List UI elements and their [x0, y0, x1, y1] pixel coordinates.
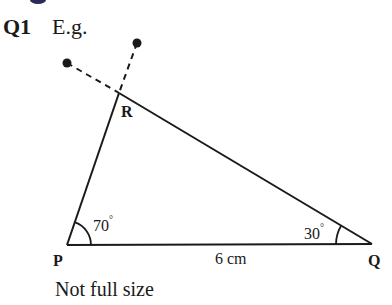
- angle-value-P: 70: [93, 217, 109, 234]
- angle-label-Q: 30°: [304, 226, 324, 242]
- angle-arc-P: [75, 222, 91, 245]
- scale-note: Not full size: [55, 279, 154, 299]
- construction-dashed-line-2: [119, 43, 137, 93]
- side-PQ: [67, 244, 372, 245]
- vertex-label-R: R: [121, 104, 133, 120]
- side-length-PQ: 6 cm: [215, 251, 247, 267]
- degree-symbol: °: [320, 222, 324, 233]
- side-RQ: [119, 93, 372, 244]
- construction-point-1: [63, 59, 72, 68]
- construction-point-2: [133, 39, 142, 48]
- angle-arc-Q: [336, 226, 341, 244]
- diagram-canvas: Q1 E.g. R P Q 70° 30° 6 cm Not full size: [0, 0, 392, 305]
- top-cropped-fragment: [30, 0, 46, 4]
- angle-label-P: 70°: [93, 218, 113, 234]
- question-intro: E.g.: [52, 16, 87, 38]
- construction-dashed-line-1: [67, 63, 119, 93]
- vertex-label-P: P: [53, 253, 63, 269]
- degree-symbol: °: [109, 214, 113, 225]
- vertex-label-Q: Q: [368, 253, 380, 269]
- question-number: Q1: [3, 16, 31, 38]
- angle-value-Q: 30: [304, 225, 320, 242]
